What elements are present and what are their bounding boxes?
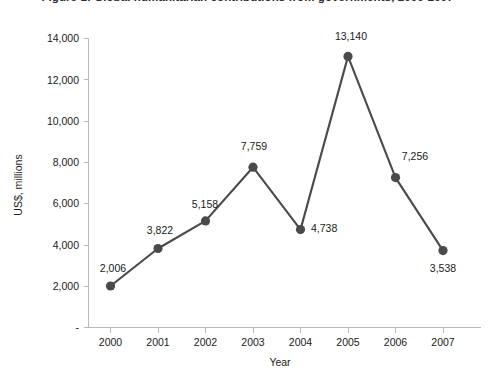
data-point-2005 (343, 52, 352, 61)
y-tick-label-4000: 4,000 (53, 239, 79, 251)
y-axis-title: US$, millions (12, 154, 24, 215)
y-tick-label-10000: 10,000 (47, 115, 79, 127)
y-tick-label-14000: 14,000 (47, 32, 79, 44)
data-point-2002 (201, 216, 210, 225)
data-label-2004: 4,738 (311, 222, 337, 234)
x-tick-label-2005: 2005 (336, 336, 360, 348)
data-point-2000 (106, 281, 115, 290)
data-point-2003 (248, 163, 257, 172)
data-label-2003: 7,759 (241, 140, 267, 152)
data-label-2006: 7,256 (402, 150, 428, 162)
x-tick-label-2002: 2002 (194, 336, 218, 348)
y-tick-label-8000: 8,000 (53, 156, 79, 168)
data-label-2001: 3,822 (147, 224, 173, 236)
x-tick-label-2004: 2004 (289, 336, 313, 348)
x-tick-label-2001: 2001 (146, 336, 170, 348)
data-point-2004 (296, 225, 305, 234)
x-axis-title: Year (269, 356, 291, 368)
line-chart-plot: 14,000 12,000 10,000 8,000 6,000 4,000 2… (0, 0, 495, 379)
y-axis-ticks (84, 39, 89, 328)
y-tick-label-12000: 12,000 (47, 74, 79, 86)
data-point-2006 (391, 173, 400, 182)
x-tick-label-2003: 2003 (241, 336, 265, 348)
y-tick-label-2000: 2,000 (53, 280, 79, 292)
y-tick-label-6000: 6,000 (53, 197, 79, 209)
x-tick-label-2007: 2007 (431, 336, 455, 348)
x-tick-label-2000: 2000 (99, 336, 123, 348)
data-label-2002: 5,158 (192, 198, 218, 210)
x-tick-label-2006: 2006 (384, 336, 408, 348)
data-label-2007: 3,538 (430, 262, 456, 274)
y-tick-label-0: - (76, 321, 80, 333)
data-label-2000: 2,006 (100, 262, 126, 274)
x-axis-ticks (111, 328, 444, 333)
series-markers (106, 52, 448, 291)
data-label-2005: 13,140 (335, 30, 367, 42)
data-point-2001 (153, 244, 162, 253)
data-point-2007 (438, 246, 447, 255)
chart-container: Figure 1: Global humanitarian contributi… (0, 0, 495, 379)
